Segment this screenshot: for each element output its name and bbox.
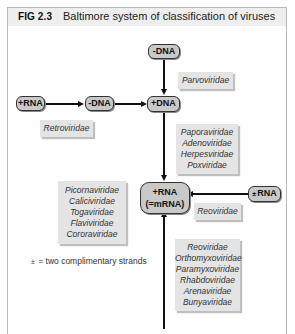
family-box-dsdna: Paporaviridae Adenoviridae Herpesviridae… [176,124,238,174]
family-name: Picornaviridae [58,185,126,196]
figure-label: FIG 2.3 [18,11,52,22]
family-name: Caliciviridae [58,196,126,207]
figure-title: Baltimore system of classification of vi… [63,10,275,22]
family-box-pos-rna: Picornaviridae Caliciviridae Togaviridae… [58,181,126,244]
family-name: Poxviridae [176,160,238,171]
figure-header: FIG 2.3 Baltimore system of classificati… [8,8,286,26]
family-box-parvo: Parvoviridae [178,72,233,89]
family-name: Parvoviridae [178,75,233,86]
node-ds-rna: ±RNA [248,186,281,202]
family-name: Arenaviridae [175,286,240,297]
arrow-rna-to-dna [44,103,82,105]
family-box-neg-rna: Reoviridae Orthomyxoviridae Paramyxoviri… [175,239,240,311]
node-pos-rna-mrna: +RNA (=mRNA) [140,182,190,214]
node-label: +RNA [18,98,43,108]
node-pos-dna: +DNA [147,96,180,112]
family-box-dsrna: Reoviridae [194,203,241,220]
legend-text: = two complimentary strands [38,256,146,266]
family-name: Paporaviridae [176,127,238,138]
node-neg-dna-mid: -DNA [85,96,114,111]
arrow-negdna-to-posdna [163,58,165,92]
node-label: -DNA [88,98,111,108]
family-name: Rhabdoviridae [175,275,240,286]
arrow-negrna-to-mrna [163,216,165,329]
node-label: RNA [257,188,277,198]
plus-minus-icon: ± [31,260,35,264]
node-label-line1: +RNA [141,186,189,198]
node-label-line2: (=mRNA) [141,198,189,210]
family-name: Flaviviridae [58,218,126,229]
family-name: Bunyaviridae [175,297,240,308]
arrowhead-right-icon [78,101,84,107]
family-name: Cororaviridae [58,229,126,240]
arrowhead-down-icon [161,89,167,95]
node-label: +DNA [151,98,176,108]
arrow-posdna-to-mrna [163,112,165,178]
family-name: Reoviridae [175,242,240,253]
family-name: Orthomyxoviridae [175,253,240,264]
family-name: Herpesviridae [176,149,238,160]
family-name: Retroviridae [40,123,93,134]
family-name: Reoviridae [194,206,241,217]
figure-frame: FIG 2.3 Baltimore system of classificati… [7,7,287,334]
node-pos-rna: +RNA [16,96,45,111]
arrowhead-down-icon [161,175,167,181]
family-name: Paramyxoviridae [175,264,240,275]
family-name: Togaviridae [58,207,126,218]
node-neg-dna-top: -DNA [148,44,180,59]
plus-minus-icon: ± [252,192,256,196]
family-box-retro: Retroviridae [40,120,93,137]
node-label: -DNA [153,46,176,56]
arrow-dsrna-to-mrna [192,193,248,195]
family-name: Adenoviridae [176,138,238,149]
legend: ± = two complimentary strands [31,256,147,266]
